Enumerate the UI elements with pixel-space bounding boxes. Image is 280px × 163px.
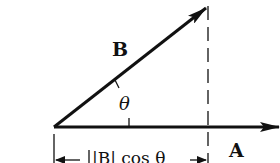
angle-theta-label: θ — [119, 95, 130, 113]
vector-b-label: B — [112, 40, 128, 59]
vector-b-arrow — [54, 8, 206, 127]
angle-tick-b — [115, 80, 119, 88]
vector-a-label: A — [229, 141, 244, 160]
projection-label: |B| cos θ — [92, 150, 165, 163]
